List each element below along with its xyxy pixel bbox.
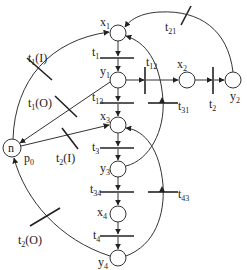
place-x2 [179, 72, 195, 88]
t2O-bar [30, 208, 60, 226]
label-t21: t21 [165, 20, 176, 36]
label-y4: y4 [98, 255, 108, 270]
label-y3: y3 [100, 161, 110, 177]
label-t1: t1 [92, 45, 99, 61]
place-y1 [110, 72, 126, 88]
token-n: n [8, 141, 14, 155]
place-x1 [110, 25, 126, 41]
label-x2: x2 [177, 57, 187, 73]
label-t1I: t1(I) [28, 51, 47, 67]
place-x4 [110, 206, 126, 222]
label-x4: x4 [97, 205, 107, 221]
t2I-bar [62, 128, 78, 149]
arc-p0-x3 [21, 125, 109, 146]
label-x1: x1 [100, 15, 110, 31]
label-t31: t31 [178, 99, 189, 115]
label-t34: t34 [90, 182, 101, 198]
label-t1O: t1(O) [28, 96, 52, 112]
label-t2O: t2(O) [18, 233, 42, 249]
label-x3: x3 [100, 109, 110, 125]
place-y3 [110, 161, 126, 177]
t43-arrow [159, 186, 165, 192]
label-y2: y2 [230, 89, 240, 105]
labels: x1 y1 x3 y3 x4 y4 x2 y2 p0 n t1 t13 t3 t… [8, 15, 240, 270]
label-t2I: t2(I) [56, 151, 75, 167]
label-p0: p0 [24, 151, 34, 167]
arc-y3-x1 [126, 36, 163, 166]
label-t13: t13 [92, 90, 103, 106]
label-t4: t4 [93, 228, 100, 244]
label-t43: t43 [178, 187, 189, 203]
place-y2 [225, 72, 241, 88]
label-y1: y1 [100, 64, 110, 80]
label-t3: t3 [92, 140, 99, 156]
place-x3 [110, 117, 126, 133]
petri-net-diagram: x1 y1 x3 y3 x4 y4 x2 y2 p0 n t1 t13 t3 t… [0, 0, 247, 270]
label-t2: t2 [209, 97, 216, 113]
t31-arrow [159, 97, 165, 103]
arc-y1-p0 [20, 82, 110, 143]
place-y4 [110, 250, 126, 266]
